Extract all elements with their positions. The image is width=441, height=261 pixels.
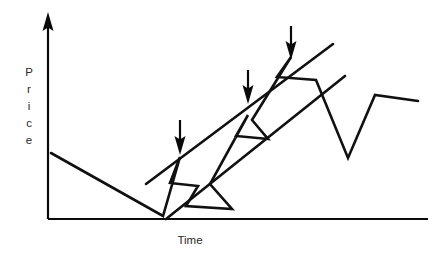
price-line [51,57,418,216]
y-axis-label-letter-1: r [27,81,31,98]
y-axis-label-letter-3: c [26,115,32,132]
upper-trendline [146,44,333,184]
trend-channel-group [146,44,345,219]
y-axis-label-letter-0: P [25,64,33,81]
price-time-chart-figure: P r i c e Time [0,0,441,261]
chart-canvas [0,0,441,261]
arrow-marker-1 [175,120,186,155]
y-axis-label-letter-2: i [28,98,31,115]
price-series-group [51,57,418,216]
arrow-marker-2 [243,70,254,104]
axes-group [43,12,429,219]
arrow-marker-3 [286,26,297,60]
y-axis-label-letter-4: e [26,132,32,149]
y-axis-label: P r i c e [18,64,40,149]
x-axis-label: Time [160,234,220,246]
